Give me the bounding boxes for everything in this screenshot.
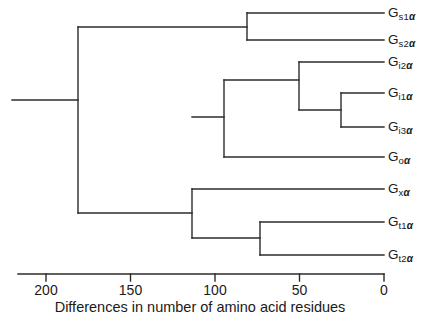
tip-base-gi2a: G [388, 54, 399, 69]
tip-subscript-gt1a: t1 [399, 220, 407, 231]
axis-tick-label-50: 50 [292, 283, 308, 297]
tip-label-gt1a: Gt1α [388, 215, 413, 231]
dendrogram-figure: Gs1αGs2αGi2αGi1αGi3αGoαGxαGt1αGt2α 20015… [0, 0, 428, 325]
tip-greek-gt2a: α [407, 253, 413, 264]
tip-greek-gxa: α [403, 187, 409, 198]
tip-label-gt2a: Gt2α [388, 248, 413, 264]
axis-tick-label-150: 150 [119, 283, 142, 297]
tip-label-gi3a: Gi3α [388, 120, 413, 136]
tree-drawing [0, 0, 428, 325]
tip-subscript-gt2a: t2 [399, 253, 407, 264]
tip-greek-goa: α [404, 155, 410, 166]
tip-greek-gi2a: α [406, 60, 412, 71]
tip-greek-gs2a: α [409, 38, 415, 49]
tip-base-gi3a: G [388, 119, 399, 134]
tip-label-gi2a: Gi2α [388, 55, 413, 71]
tip-label-gi1a: Gi1α [388, 86, 413, 102]
tip-base-gs2a: G [388, 32, 399, 47]
tip-subscript-gs2a: s2 [399, 38, 409, 49]
tip-base-gt2a: G [388, 247, 399, 262]
tip-base-goa: G [388, 149, 399, 164]
tip-label-goa: Goα [388, 150, 410, 166]
axis-tick-label-100: 100 [203, 283, 226, 297]
axis-tick-label-0: 0 [380, 283, 388, 297]
axis-group [18, 274, 384, 281]
tip-label-gxa: Gxα [388, 182, 410, 198]
tip-base-gi1a: G [388, 85, 399, 100]
tip-base-gxa: G [388, 181, 399, 196]
axis-caption: Differences in number of amino acid resi… [0, 300, 400, 315]
tip-greek-gs1a: α [409, 11, 415, 22]
tip-base-gs1a: G [388, 5, 399, 20]
axis-tick-label-200: 200 [34, 283, 57, 297]
tip-label-gs1a: Gs1α [388, 6, 415, 22]
tip-label-gs2a: Gs2α [388, 33, 415, 49]
tip-base-gt1a: G [388, 214, 399, 229]
tip-subscript-gs1a: s1 [399, 11, 409, 22]
tip-greek-gt1a: α [407, 220, 413, 231]
tree-branch-lines [12, 13, 384, 255]
tip-greek-gi1a: α [406, 91, 412, 102]
tip-greek-gi3a: α [406, 125, 412, 136]
